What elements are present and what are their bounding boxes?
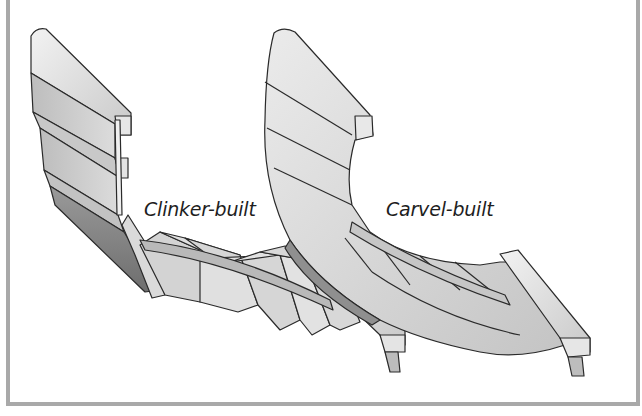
- hull-construction-illustration: [0, 0, 642, 416]
- carvel-built-label: Carvel-built: [386, 198, 494, 220]
- clinker-built-label: Clinker-built: [144, 198, 256, 220]
